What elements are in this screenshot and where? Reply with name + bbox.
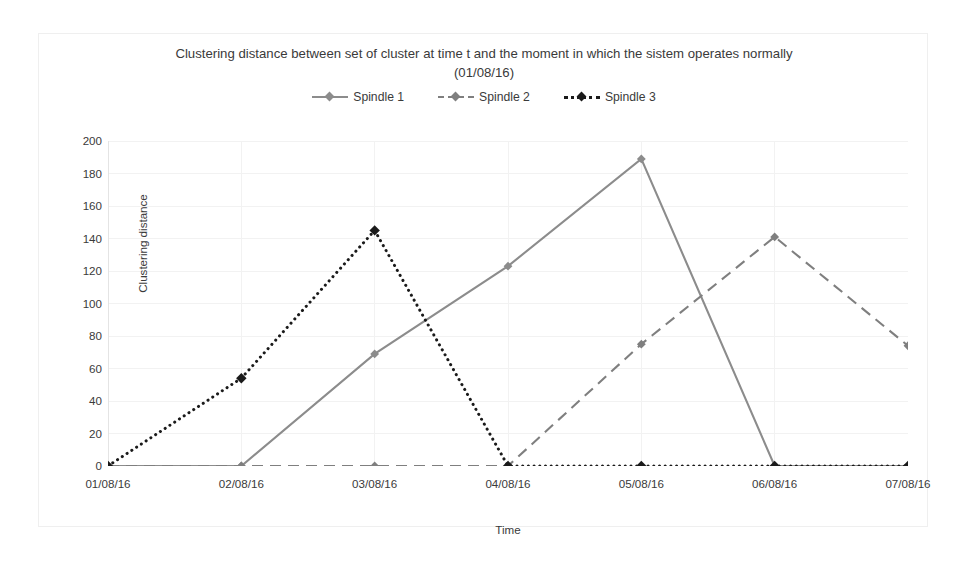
plot-area: Clustering distance Time 020406080100120… bbox=[108, 141, 908, 466]
chart-title-main: Clustering distance between set of clust… bbox=[175, 46, 792, 61]
y-tick-label: 120 bbox=[62, 264, 102, 277]
legend-key-icon bbox=[564, 91, 600, 103]
legend-item-1[interactable]: Spindle 1 bbox=[312, 90, 404, 104]
legend-label: Spindle 2 bbox=[479, 90, 530, 104]
plot-svg bbox=[108, 141, 908, 466]
y-tick-label: 200 bbox=[62, 134, 102, 147]
y-axis-title: Clustering distance bbox=[136, 174, 149, 314]
x-tick-label: 01/08/16 bbox=[63, 477, 153, 490]
chart-title: Clustering distance between set of clust… bbox=[99, 44, 869, 82]
data-point-marker bbox=[370, 462, 379, 466]
y-tick-label: 100 bbox=[62, 297, 102, 310]
data-point-marker bbox=[636, 461, 646, 466]
legend-item-2[interactable]: Spindle 2 bbox=[438, 90, 530, 104]
legend-key-icon bbox=[438, 91, 474, 103]
legend-label: Spindle 3 bbox=[605, 90, 656, 104]
x-tick-label: 05/08/16 bbox=[596, 477, 686, 490]
data-point-marker bbox=[769, 461, 779, 466]
chart-legend: Spindle 1Spindle 2Spindle 3 bbox=[39, 90, 929, 104]
chart-title-subtitle: (01/08/16) bbox=[99, 63, 869, 82]
x-axis-title: Time bbox=[108, 523, 908, 536]
y-tick-label: 40 bbox=[62, 394, 102, 407]
y-tick-label: 180 bbox=[62, 167, 102, 180]
x-tick-label: 03/08/16 bbox=[330, 477, 420, 490]
legend-key-icon bbox=[312, 91, 348, 103]
y-tick-label: 160 bbox=[62, 199, 102, 212]
y-tick-label: 140 bbox=[62, 232, 102, 245]
chart-container: Clustering distance between set of clust… bbox=[38, 33, 928, 527]
legend-item-3[interactable]: Spindle 3 bbox=[564, 90, 656, 104]
y-tick-label: 0 bbox=[62, 459, 102, 472]
x-tick-label: 06/08/16 bbox=[730, 477, 820, 490]
legend-label: Spindle 1 bbox=[353, 90, 404, 104]
x-tick-label: 04/08/16 bbox=[463, 477, 553, 490]
x-tick-label: 02/08/16 bbox=[196, 477, 286, 490]
y-tick-label: 20 bbox=[62, 427, 102, 440]
x-tick-label: 07/08/16 bbox=[863, 477, 953, 490]
y-tick-label: 80 bbox=[62, 329, 102, 342]
y-tick-label: 60 bbox=[62, 362, 102, 375]
data-point-marker bbox=[903, 461, 908, 466]
